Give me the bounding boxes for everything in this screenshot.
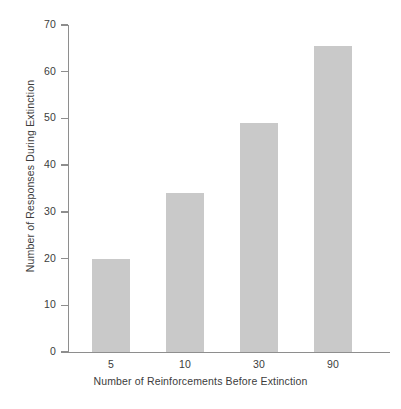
- y-axis-tick-mark: [61, 71, 68, 72]
- x-axis-tick-label: 5: [92, 358, 130, 370]
- y-axis-title: Number of Responses During Extinction: [24, 26, 36, 326]
- y-axis-tick-mark: [61, 164, 68, 165]
- y-axis-tick-mark: [61, 24, 68, 25]
- y-axis-tick-mark: [61, 305, 68, 306]
- bar-chart-figure: 010203040506070 5103090 Number of Reinfo…: [0, 0, 401, 409]
- x-axis-tick-label: 90: [314, 358, 352, 370]
- x-axis-title: Number of Reinforcements Before Extincti…: [0, 375, 401, 387]
- y-axis-tick-label: 0: [0, 345, 56, 357]
- bar-90: [314, 46, 352, 352]
- bar-5: [92, 259, 130, 352]
- x-axis-line: [68, 352, 390, 353]
- plot-area: 010203040506070 5103090 Number of Reinfo…: [0, 0, 401, 409]
- bar-30: [240, 123, 278, 352]
- x-axis-tick-label: 30: [240, 358, 278, 370]
- y-axis-tick-mark: [61, 211, 68, 212]
- y-axis-tick-mark: [61, 258, 68, 259]
- x-axis-tick-label: 10: [166, 358, 204, 370]
- y-axis-line: [68, 25, 69, 353]
- y-axis-tick-mark: [61, 351, 68, 352]
- bar-10: [166, 193, 204, 352]
- y-axis-tick-mark: [61, 118, 68, 119]
